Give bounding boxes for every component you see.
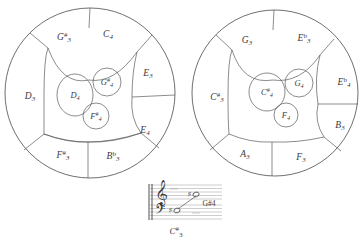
right-spoke-upperright [320,39,334,55]
interval-connector-line [178,196,196,209]
island-label-G4: G4 [294,78,303,89]
pitch-octave: 4 [110,81,113,88]
pitch-octave: 4 [99,115,102,122]
left-arc-d3-inner [44,48,48,134]
region-label-E3: E3 [143,68,152,81]
island-label-F4: F4 [282,110,290,121]
staff-label-G4-sharp: G#4 [203,199,216,208]
bass-clef-icon: 𝄢 [155,201,165,220]
pitch-octave: 4 [301,82,304,89]
pitch-octave: 3 [149,72,153,80]
pitch-octave: 4 [287,114,290,121]
right-spoke-upperleft [216,35,232,50]
pitch-octave: 3 [246,153,250,161]
pitch-octave: 3 [32,95,36,103]
region-label-G3-sharp: G#3 [57,32,71,45]
right-spoke-lowerleft [210,134,229,150]
region-label-C4: C4 [103,29,113,42]
region-label-A3: A3 [240,149,249,162]
island-label-D4: D4 [70,90,79,101]
pitch-octave: 3 [307,37,311,45]
pitch-base: G [242,35,249,45]
left-spoke-upperleft [30,33,48,48]
treble-notehead [192,191,199,197]
pitch-octave: 4 [77,94,80,101]
treble-accidental-sharp: ♯ [188,191,191,197]
region-label-D3: D3 [25,91,35,104]
right-arc-bottom-right [272,137,324,142]
pitch-base: G [57,32,64,42]
pitch-octave: 4 [146,129,150,137]
left-spoke-lowerleft [24,134,44,150]
right-arc-b3-inner [317,104,324,137]
pitch-octave: 3 [66,154,70,162]
pitch-octave: 4 [109,33,113,41]
pitch-octave: 3 [302,156,306,164]
region-label-G3: G3 [242,35,252,48]
staff-label-C3-sharp: C#3 [169,225,182,239]
right-arc-g3 [232,50,320,81]
pitch-octave: 3 [220,96,224,104]
left-arc-e3-inner [132,52,137,97]
island-label-C4-sharp: C#4 [261,87,273,98]
region-label-B3: B3 [335,120,344,133]
pitch-octave: 3 [249,39,253,47]
region-label-E4: E4 [140,125,149,138]
region-label-F3: F3 [296,152,305,165]
pitch-octave: 4 [270,91,273,98]
island-label-G4-sharp: G#4 [101,77,113,88]
right-arc-bottom-left [229,134,272,142]
pitch-octave: 3 [67,36,71,44]
left-spoke-top [89,8,90,28]
left-spoke-right [132,95,175,97]
region-label-E3-flat: Eb3 [298,33,311,46]
pitch-octave: 3 [341,124,345,132]
pitch-octave: 3 [116,155,120,163]
left-arc-g3sharp [48,48,137,81]
left-arc-bottom-dip2 [88,133,141,142]
right-spoke-lowerright [324,137,341,151]
right-spoke-top [273,10,274,30]
region-label-B3-flat: Bb3 [107,151,120,164]
region-label-E4-flat: Eb4 [338,77,351,90]
pitch-octave: 3 [179,231,183,239]
pitch-base: D [25,91,32,101]
region-label-F3-sharp: F#3 [57,150,70,163]
left-spoke-upperright [137,35,152,52]
right-arc-eb4-inner [316,55,320,104]
left-arc-bottom-dip [44,134,88,142]
right-arc-c3sharp-inner [228,50,232,134]
bass-accidental-sharp: ♯ [169,207,172,213]
island-label-F4-sharp: F#4 [90,111,101,122]
figure-canvas: 𝄞 𝄢 ♯ ♯ D3 G#3 C4 E3 E4 Bb3 F# [0,0,362,244]
pitch-octave: 4 [347,81,351,89]
region-label-C3-sharp: C#3 [210,92,223,105]
